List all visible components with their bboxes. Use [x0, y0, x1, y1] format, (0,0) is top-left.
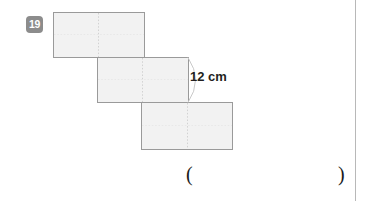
- worksheet-page: 19 12 cm ( ): [0, 0, 369, 201]
- dimension-label: 12 cm: [190, 69, 227, 84]
- bottom-square-shape: [142, 103, 233, 150]
- column-rule: [355, 0, 356, 201]
- answer-paren-close: ): [338, 162, 345, 186]
- staircase-figure: [0, 0, 369, 201]
- answer-paren-open: (: [186, 162, 193, 186]
